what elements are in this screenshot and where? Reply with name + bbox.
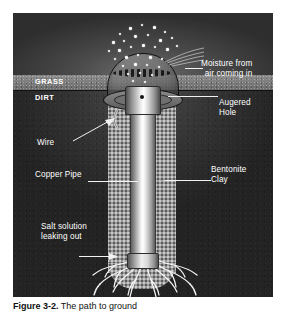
figure-caption-text: The path to ground xyxy=(61,301,137,311)
moisture-droplet xyxy=(149,56,152,59)
copper-pipe-foot xyxy=(127,253,159,269)
moisture-droplet xyxy=(125,56,128,59)
moisture-droplet xyxy=(134,35,137,38)
label-bentonite-clay: Bentonite Clay xyxy=(211,165,247,185)
pipe-cap xyxy=(125,86,161,115)
leader-arrow-wire xyxy=(71,117,117,143)
figure-caption: Figure 3-2. The path to ground xyxy=(13,300,273,317)
label-wire: Wire xyxy=(37,138,54,148)
cap-screw-icon xyxy=(140,95,144,99)
figure-caption-label: Figure 3-2. xyxy=(13,301,59,311)
moisture-droplet xyxy=(153,26,156,29)
label-moisture: Moisture from air coming in xyxy=(201,59,252,79)
figure-container: GRASS DIRT Moisture from air coming in A… xyxy=(0,0,285,317)
moisture-droplet xyxy=(129,27,132,30)
moisture-droplet xyxy=(132,80,134,82)
moisture-droplet xyxy=(112,41,115,44)
leader-arrow-salt xyxy=(109,252,119,261)
diagram-illustration: GRASS DIRT Moisture from air coming in A… xyxy=(13,13,273,297)
moisture-droplet xyxy=(118,49,121,52)
moisture-droplet xyxy=(142,44,145,47)
moisture-droplet xyxy=(159,39,162,42)
leader-line-augered xyxy=(168,96,218,97)
leader-line-bentonite xyxy=(165,180,211,181)
label-grass: GRASS xyxy=(35,77,64,87)
label-salt-solution: Salt solution leaking out xyxy=(41,222,87,242)
label-augered-hole: Augered Hole xyxy=(219,98,251,118)
label-copper-pipe: Copper Pipe xyxy=(35,170,82,180)
leader-line-salt xyxy=(79,256,113,257)
leader-line-copper xyxy=(88,181,138,182)
label-dirt: DIRT xyxy=(35,93,54,103)
moisture-droplet xyxy=(134,63,137,66)
moisture-flow-lines xyxy=(163,46,205,68)
dome-vent-slots xyxy=(113,69,171,77)
